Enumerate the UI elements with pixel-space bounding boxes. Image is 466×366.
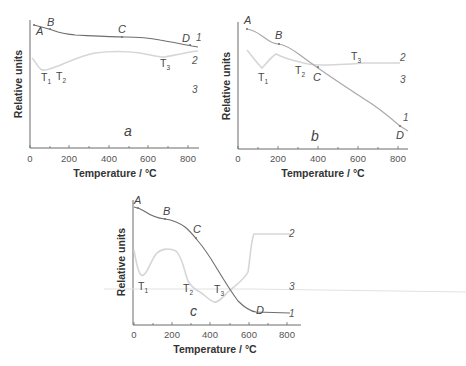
t3-label: T3 — [214, 283, 224, 297]
x-tick-label: 600 — [140, 153, 156, 164]
curve-1 — [247, 29, 408, 131]
x-tick-label: 0 — [131, 329, 136, 340]
y-axis-label: Relative units — [220, 52, 232, 120]
t1-label: T1 — [41, 71, 51, 85]
point-label-b: B — [47, 16, 54, 28]
point-label-a: A — [35, 25, 43, 37]
panel-label-b: b — [311, 128, 319, 144]
panel-c: 0 200 400 600 800 Temperature / °C Relat… — [104, 194, 466, 355]
panel-b: 0 200 400 600 800 Temperature / °C Relat… — [220, 14, 409, 179]
curve-1 — [34, 25, 198, 47]
t3-label: T3 — [160, 57, 170, 71]
curve-2 — [32, 51, 198, 70]
curve-3 — [104, 289, 466, 292]
point-label-d: D — [182, 32, 190, 44]
x-tick-label: 600 — [241, 329, 257, 340]
t3-label: T3 — [351, 50, 361, 64]
panel-a: 0 200 400 600 800 Temperature / °C Relat… — [12, 16, 202, 179]
t1-label: T1 — [258, 71, 268, 85]
x-tick-label: 400 — [310, 153, 326, 164]
point-label-d: D — [396, 129, 404, 141]
curve-number-1: 1 — [289, 308, 295, 319]
curve-1 — [134, 207, 290, 313]
point-label-d: D — [256, 304, 264, 316]
x-tick-label: 800 — [180, 153, 196, 164]
curve-number-2: 2 — [399, 52, 406, 63]
x-axis-label: Temperature / °C — [73, 167, 157, 179]
curve-2 — [134, 234, 290, 302]
x-tick-label: 800 — [390, 153, 406, 164]
point-label-b: B — [275, 29, 282, 41]
point-label-c: C — [313, 71, 321, 83]
curve-number-3: 3 — [289, 281, 295, 292]
panel-label-a: a — [124, 123, 132, 139]
x-tick-label: 0 — [27, 153, 32, 164]
x-tick-label: 400 — [202, 329, 218, 340]
y-axis-label: Relative units — [115, 228, 127, 296]
curve-number-1: 1 — [196, 32, 202, 43]
panel-label-c: c — [190, 303, 197, 319]
x-tick-label: 0 — [235, 153, 240, 164]
t2-label: T2 — [183, 282, 193, 296]
curve-number-2: 2 — [191, 55, 198, 66]
x-axis-label: Temperature / °C — [281, 167, 365, 179]
point-label-c: C — [118, 23, 126, 35]
point-label-c: C — [193, 223, 201, 235]
curve-number-2: 2 — [288, 228, 295, 239]
x-axis-label: Temperature / °C — [173, 343, 257, 355]
t2-label: T2 — [56, 70, 66, 84]
x-tick-label: 200 — [61, 153, 77, 164]
point-label-b: B — [163, 205, 170, 217]
x-tick-label: 200 — [270, 153, 286, 164]
x-tick-label: 600 — [350, 153, 366, 164]
x-tick-label: 200 — [164, 329, 180, 340]
point-label-a: A — [243, 14, 251, 26]
curve-number-3: 3 — [400, 74, 406, 85]
x-tick-label: 800 — [279, 329, 295, 340]
figure-canvas: 0 200 400 600 800 Temperature / °C Relat… — [0, 0, 466, 366]
curve-number-3: 3 — [192, 84, 198, 95]
curve-number-1: 1 — [403, 112, 409, 123]
t1-label: T1 — [138, 280, 148, 294]
t2-label: T2 — [295, 64, 305, 78]
x-tick-label: 400 — [101, 153, 117, 164]
y-axis-label: Relative units — [12, 50, 24, 118]
curve-2 — [247, 50, 400, 68]
point-label-a: A — [133, 194, 141, 206]
